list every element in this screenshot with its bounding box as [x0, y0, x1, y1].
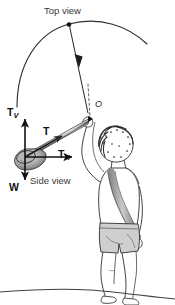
foot-front: [123, 298, 139, 305]
radius-arrowhead: [75, 54, 83, 68]
leg-back: [101, 252, 106, 299]
ground-line: [0, 289, 175, 299]
knee-hint: [109, 270, 115, 271]
shorts: [99, 223, 139, 253]
vector-label-tension-horizontal: TH: [58, 149, 70, 161]
radius-line: [70, 26, 89, 113]
origin-point-label: O: [95, 100, 102, 109]
side-view-label: Side view: [30, 176, 71, 186]
foot-back: [101, 296, 116, 303]
vector-label-weight: W: [9, 182, 19, 193]
trajectory-arc-group: [17, 21, 147, 113]
tv-subscript: V: [13, 111, 18, 120]
t-base: T: [43, 125, 49, 137]
vector-label-tension-vertical: TV: [7, 107, 18, 119]
vector-label-tension: T: [43, 126, 49, 137]
sling-side-view: [15, 116, 93, 170]
th-subscript: H: [64, 153, 69, 162]
leg-front-inner: [132, 251, 137, 301]
person-figure: [82, 117, 143, 305]
trajectory-arc: [17, 21, 147, 107]
top-view-label: Top view: [44, 6, 81, 16]
leg-back-inner: [114, 253, 116, 284]
sling-physics-figure: Top view Side view O TV T TH W: [0, 0, 175, 305]
w-base: W: [9, 181, 19, 193]
head: [99, 126, 133, 162]
